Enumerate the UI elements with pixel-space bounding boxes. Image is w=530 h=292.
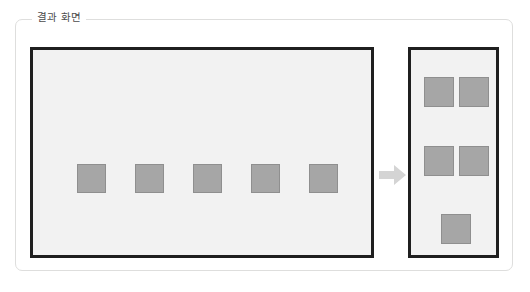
result-square-5 [441, 214, 471, 244]
source-square-5 [309, 164, 338, 193]
source-square-4 [251, 164, 280, 193]
source-square-1 [77, 164, 106, 193]
result-square-3 [424, 146, 454, 176]
result-screen-group: 결과 화면 [15, 19, 513, 271]
result-layout-panel [408, 47, 499, 258]
result-screen-group-title: 결과 화면 [32, 11, 86, 23]
source-square-3 [193, 164, 222, 193]
source-square-2 [135, 164, 164, 193]
source-layout-panel [30, 47, 374, 258]
result-square-1 [424, 77, 454, 107]
result-square-2 [459, 77, 489, 107]
transform-arrow-icon [379, 163, 407, 187]
result-square-4 [459, 146, 489, 176]
